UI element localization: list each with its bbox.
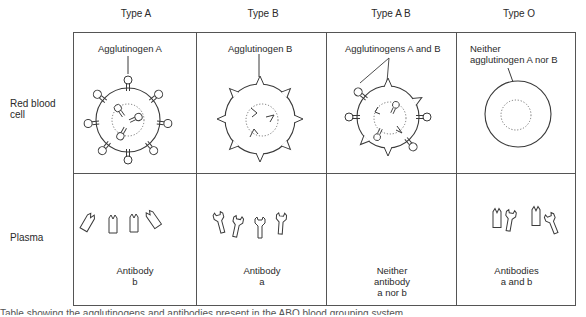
- label-antibody-b: Antibody b: [75, 265, 195, 287]
- label-antibody-a: Antibody a: [198, 265, 326, 287]
- label-antibodies-a-and-b: Antibodies a and b: [458, 265, 575, 287]
- type-b-red-cell: [217, 54, 303, 162]
- label-agglutinogens-a-and-b: Agglutinogens A and B: [345, 43, 465, 54]
- label-agglutinogen-b: Agglutinogen B: [228, 43, 328, 54]
- label-agglutinogen-a: Agglutinogen A: [98, 43, 218, 54]
- type-ab-red-cell: [345, 58, 431, 156]
- type-o-antibodies: [493, 207, 561, 236]
- label-neither-agglutinogen: Neither agglutinogen A nor B: [470, 43, 580, 65]
- type-a-red-cell: [84, 56, 172, 164]
- type-o-red-cell: [485, 68, 551, 147]
- type-b-antibodies: [213, 211, 287, 238]
- label-neither-antibody: Neither antibody a nor b: [328, 265, 456, 298]
- type-a-antibodies: [80, 209, 161, 233]
